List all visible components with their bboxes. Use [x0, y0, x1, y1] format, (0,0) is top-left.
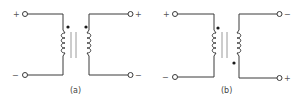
polarity-dot-secondary	[232, 61, 235, 64]
panel-b: + − − + (b)	[162, 10, 291, 95]
polarity-dot-primary	[216, 26, 219, 29]
primary-bottom-sign: −	[12, 71, 19, 80]
secondary-bottom-sign: −	[135, 71, 142, 80]
secondary-top-terminal	[277, 12, 282, 17]
primary-top-sign: +	[163, 10, 170, 19]
primary-coil	[28, 30, 66, 75]
secondary-coil	[87, 14, 128, 75]
primary-top-sign: +	[13, 10, 20, 19]
secondary-top-terminal	[128, 12, 133, 17]
primary-top-wire	[178, 14, 215, 30]
polarity-dot-secondary	[84, 25, 87, 28]
primary-top-terminal	[23, 12, 28, 17]
primary-top-wire	[28, 14, 64, 30]
primary-top-terminal	[173, 12, 178, 17]
secondary-top-sign: −	[284, 10, 291, 19]
secondary-coil	[237, 14, 277, 78]
primary-bottom-terminal	[173, 75, 178, 80]
primary-bottom-terminal	[23, 73, 28, 78]
secondary-bottom-terminal	[128, 73, 133, 78]
transformer-diagrams: + − + − (a) + − − + (b)	[0, 0, 297, 103]
secondary-top-sign: +	[135, 10, 142, 19]
primary-bottom-sign: −	[162, 73, 169, 82]
secondary-bottom-terminal	[277, 76, 282, 81]
caption-a: (a)	[70, 86, 81, 95]
primary-coil	[178, 30, 217, 77]
panel-a: + − + − (a)	[12, 10, 142, 95]
secondary-bottom-sign: +	[284, 74, 291, 83]
caption-b: (b)	[221, 86, 232, 95]
polarity-dot-primary	[66, 25, 69, 28]
